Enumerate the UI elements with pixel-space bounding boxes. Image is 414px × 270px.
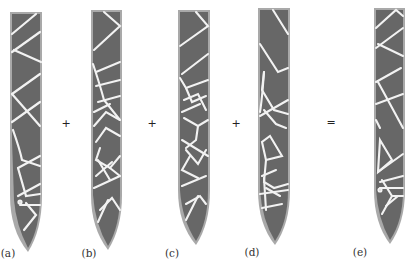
plus-operator-2: + [147,118,156,129]
blade-a [10,12,42,252]
plus-operator-1: + [61,118,70,129]
blade-c [178,10,210,245]
panel-label-e: (e) [353,247,367,258]
panel-label-a: (a) [1,248,15,259]
blade-e [374,8,405,244]
figure-canvas [0,0,414,270]
plus-operator-3: + [231,118,240,129]
blade-b [91,10,122,250]
panel-label-b: (b) [82,248,97,259]
equals-operator: = [326,117,335,128]
crack-pattern-figure: + + + = (a) (b) (c) (d) (e) [0,0,414,270]
panel-label-c: (c) [165,248,179,259]
panel-label-d: (d) [245,247,260,258]
blade-d [258,8,290,245]
